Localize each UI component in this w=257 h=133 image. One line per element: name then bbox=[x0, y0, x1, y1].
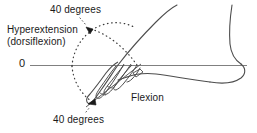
toe-range-of-motion-diagram: 40 degrees Hyperextension (dorsiflexion)… bbox=[0, 0, 257, 133]
hyperextension-arc-left bbox=[72, 31, 91, 66]
diagram-illustration bbox=[0, 0, 257, 133]
heel-outline bbox=[210, 64, 245, 83]
neutral-zero-label: 0 bbox=[19, 58, 25, 69]
hyperextension-degrees-label: 40 degrees bbox=[50, 4, 101, 15]
flexion-degrees-label: 40 degrees bbox=[53, 114, 104, 125]
arc-radius-upper bbox=[94, 30, 137, 65]
top-label-leader-line bbox=[80, 18, 86, 25]
hyperextension-arrowhead-icon bbox=[86, 27, 93, 34]
big-toe-outline bbox=[87, 62, 118, 104]
flexion-label: Flexion bbox=[131, 92, 164, 103]
hyperextension-label: Hyperextension bbox=[7, 24, 78, 35]
leg-posterior-outline bbox=[230, 5, 241, 64]
dorsiflexion-label: (dorsiflexion) bbox=[7, 36, 66, 47]
bottom-label-leader-line bbox=[86, 107, 90, 112]
hyperextension-arc bbox=[92, 23, 134, 30]
foot-dorsum-outline bbox=[118, 5, 177, 65]
